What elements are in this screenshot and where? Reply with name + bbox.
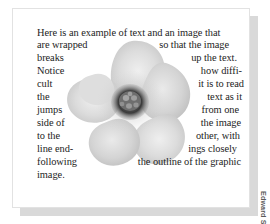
figure-root: Here is an example of text and an image … <box>0 0 270 224</box>
text-line-11-right: the outline of the graphic <box>37 156 241 167</box>
text-line-3-right: up the text. <box>37 52 237 63</box>
page-card: Here is an example of text and an image … <box>12 8 250 208</box>
text-line-8-right: the image <box>37 117 241 128</box>
text-line-12-left: image. <box>37 169 65 180</box>
text-line-5-right: it is to read <box>37 78 244 89</box>
text-line-1-left: Here is an example of text and an image … <box>37 27 237 38</box>
text-line-4-right: how diffi- <box>37 65 242 76</box>
text-line-7-right: from one <box>37 104 239 115</box>
photo-credit-label: Edward Skintik <box>259 191 268 224</box>
text-line-6-right: text as it <box>37 91 242 102</box>
text-line-10-right: ings closely <box>37 143 237 154</box>
photo-credit: Edward Skintik <box>257 126 269 222</box>
text-line-9-right: other, with <box>37 130 240 141</box>
text-line-2-right: so that the image <box>37 39 229 50</box>
wrapped-text-layer: Here is an example of text and an image … <box>13 9 250 208</box>
